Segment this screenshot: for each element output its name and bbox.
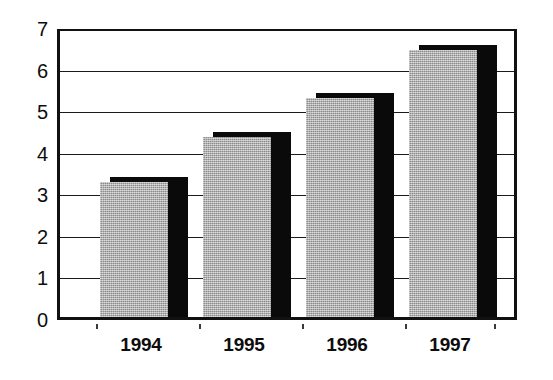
bar-face xyxy=(409,50,477,317)
y-axis-tick-label: 2 xyxy=(6,227,48,247)
y-axis-tick-label: 5 xyxy=(6,102,48,122)
bar-side-shadow xyxy=(477,50,497,317)
x-axis-ticks xyxy=(57,322,517,332)
y-axis-tick-label: 0 xyxy=(6,310,48,330)
x-axis-tick xyxy=(405,324,407,329)
x-axis-label-1997: 1997 xyxy=(406,335,494,356)
y-axis-tick-label: 4 xyxy=(6,144,48,164)
bar-side-shadow xyxy=(168,182,188,317)
x-axis-tick xyxy=(494,324,496,329)
y-axis-tick-label: 7 xyxy=(6,19,48,39)
x-axis-labels: 1994 1995 1996 1997 xyxy=(57,335,517,365)
x-axis-tick xyxy=(199,324,201,329)
bar-face xyxy=(306,98,374,317)
bars-layer xyxy=(60,29,514,317)
bar-side-shadow xyxy=(374,98,394,317)
y-axis-tick-label: 1 xyxy=(6,268,48,288)
bar-1994 xyxy=(100,29,188,317)
y-axis-labels: 7 6 5 4 3 2 1 0 xyxy=(0,29,48,320)
x-axis-label-1994: 1994 xyxy=(97,335,185,356)
x-axis-label-1996: 1996 xyxy=(303,335,391,356)
y-axis-tick-label: 3 xyxy=(6,185,48,205)
y-axis-tick-label: 6 xyxy=(6,61,48,81)
bar-face xyxy=(203,137,271,317)
bar-side-shadow xyxy=(271,137,291,317)
x-axis-tick xyxy=(302,324,304,329)
x-axis-label-1995: 1995 xyxy=(200,335,288,356)
x-axis-tick xyxy=(96,324,98,329)
bar-face xyxy=(100,182,168,317)
bar-1996 xyxy=(306,29,394,317)
bar-1995 xyxy=(203,29,291,317)
bar-1997 xyxy=(409,29,497,317)
bar-chart: 7 6 5 4 3 2 1 0 xyxy=(0,0,553,380)
